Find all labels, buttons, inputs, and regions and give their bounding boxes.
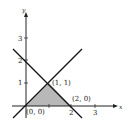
tick-label-x2: 2	[69, 109, 73, 117]
point-label-1-1: (1, 1)	[52, 79, 71, 87]
x-axis-label: x	[119, 103, 123, 110]
x-axis-arrow-icon	[113, 104, 118, 108]
point-label-0-0: (0, 0)	[26, 108, 45, 116]
tick-label-y3: 3	[18, 35, 22, 43]
graph: y x 1 2 3 2 3 (1, 1) (2, 0) (0, 0)	[0, 0, 128, 125]
tick-label-y2: 2	[18, 57, 22, 65]
y-axis-label: y	[21, 6, 26, 14]
tick-label-x3: 3	[93, 109, 97, 117]
point-label-2-0: (2, 0)	[72, 95, 91, 103]
tick-label-y1: 1	[18, 79, 22, 87]
